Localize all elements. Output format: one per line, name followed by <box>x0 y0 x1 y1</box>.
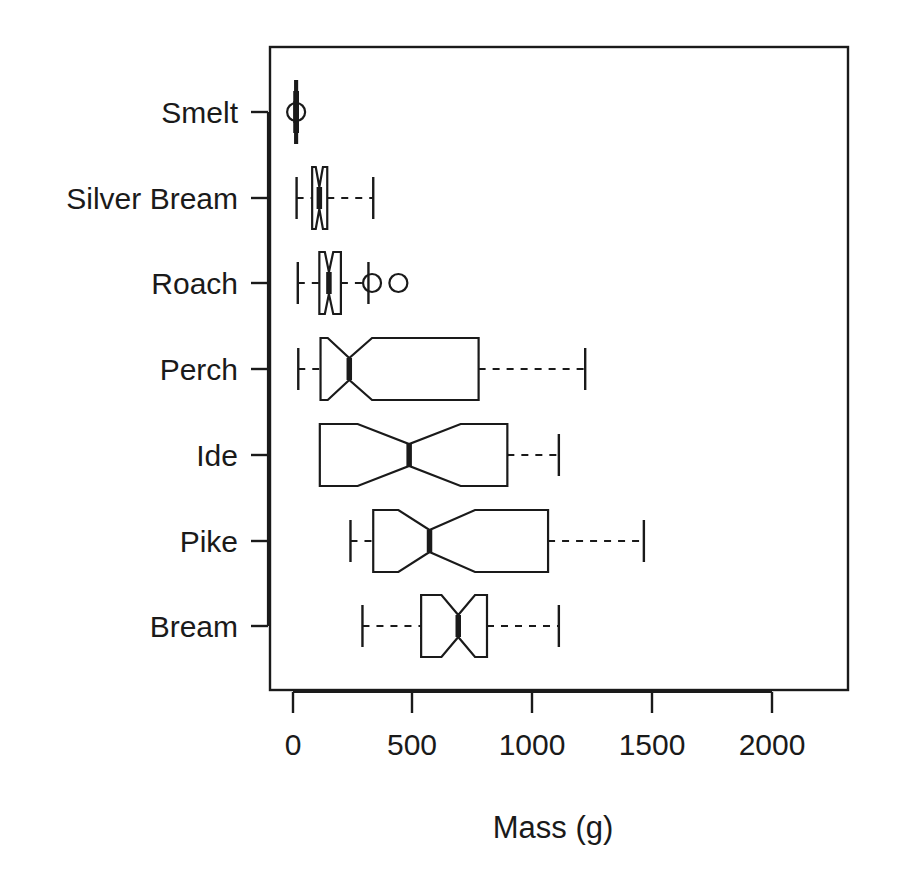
y-tick-label-silver-bream: Silver Bream <box>66 182 238 215</box>
x-tick-label-500: 500 <box>387 728 437 761</box>
y-tick-label-bream: Bream <box>150 610 238 643</box>
box <box>373 510 548 572</box>
outlier-point-1 <box>389 274 407 292</box>
y-axis <box>251 112 268 626</box>
outlier-point-0 <box>363 274 381 292</box>
boxplot-canvas: Smelt Silver Bream Roach Perch Ide Pike … <box>0 0 906 890</box>
x-tick-label-2000: 2000 <box>739 728 806 761</box>
x-tick-label-1000: 1000 <box>499 728 566 761</box>
x-axis-title: Mass (g) <box>493 810 614 845</box>
box <box>421 595 487 657</box>
box-group-perch[interactable] <box>298 338 585 400</box>
y-tick-label-smelt: Smelt <box>161 96 238 129</box>
box-group-bream[interactable] <box>362 595 558 657</box>
x-axis <box>293 692 772 713</box>
box-group-roach[interactable] <box>298 252 408 314</box>
box-group-silver-bream[interactable] <box>297 167 374 229</box>
box <box>321 338 479 400</box>
box <box>320 424 508 486</box>
box-group-smelt[interactable] <box>287 81 305 143</box>
boxplot-figure: Smelt Silver Bream Roach Perch Ide Pike … <box>0 0 906 890</box>
y-tick-label-ide: Ide <box>196 439 238 472</box>
box-group-pike[interactable] <box>350 510 643 572</box>
y-tick-label-pike: Pike <box>180 525 238 558</box>
boxplot-series <box>287 81 644 657</box>
box-group-ide[interactable] <box>320 424 559 486</box>
y-tick-label-roach: Roach <box>151 267 238 300</box>
y-tick-label-perch: Perch <box>160 353 238 386</box>
x-tick-label-1500: 1500 <box>619 728 686 761</box>
x-tick-label-0: 0 <box>285 728 302 761</box>
